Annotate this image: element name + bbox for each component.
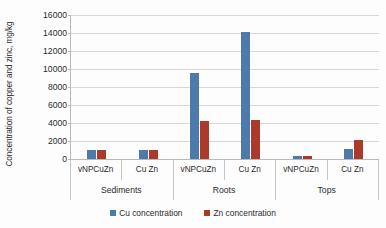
axis-separator — [70, 160, 71, 180]
axis-separator — [378, 160, 379, 180]
bar-cu-concentration — [293, 156, 302, 159]
category-label: Cu Zn — [224, 160, 275, 180]
y-axis-tick-label: 6000 — [48, 100, 67, 110]
chart-legend: Cu concentrationZn concentration — [0, 206, 386, 220]
y-axis-tick-label: 2000 — [48, 136, 67, 146]
plot-area: 1600014000120001000080006000400020000 — [70, 15, 379, 160]
y-axis-title: Concentration of copper and zinc, mg/kg — [2, 14, 16, 174]
legend-label: Cu concentration — [119, 208, 182, 218]
category-label: vNPCuZn — [275, 160, 326, 180]
category-label: Cu Zn — [327, 160, 378, 180]
bar-cu-concentration — [87, 150, 96, 159]
bar-cu-concentration — [139, 150, 148, 159]
category-labels-row: vNPCuZnCu ZnvNPCuZnCu ZnvNPCuZnCu Zn — [70, 160, 378, 180]
y-axis-tick-label: 10000 — [43, 64, 67, 74]
group-label: Roots — [173, 180, 276, 200]
group-label: Tops — [275, 180, 378, 200]
bar-zn-concentration — [354, 140, 363, 159]
category-axis: vNPCuZnCu ZnvNPCuZnCu ZnvNPCuZnCu Zn Sed… — [70, 160, 378, 200]
bar-zn-concentration — [149, 150, 158, 159]
y-axis-tick-label: 14000 — [43, 28, 67, 38]
group-labels-row: SedimentsRootsTops — [70, 180, 378, 200]
legend-label: Zn concentration — [213, 208, 275, 218]
bars-layer — [71, 15, 379, 159]
group-label: Sediments — [70, 180, 173, 200]
legend-item[interactable]: Zn concentration — [204, 208, 275, 218]
y-axis-tick-label: 8000 — [48, 82, 67, 92]
bar-cu-concentration — [344, 149, 353, 159]
group-separator — [70, 180, 71, 200]
y-axis-tick-label: 12000 — [43, 46, 67, 56]
bar-zn-concentration — [97, 150, 106, 159]
category-label: vNPCuZn — [70, 160, 121, 180]
y-axis-tick-label: 0 — [62, 154, 67, 164]
group-separator — [378, 180, 379, 200]
legend-swatch-icon — [204, 210, 210, 216]
bar-zn-concentration — [200, 121, 209, 159]
bar-zn-concentration — [303, 156, 312, 159]
category-label: Cu Zn — [121, 160, 172, 180]
y-axis-tick-label: 16000 — [43, 10, 67, 20]
bar-cu-concentration — [190, 73, 199, 159]
y-axis-tick-label: 4000 — [48, 118, 67, 128]
legend-swatch-icon — [110, 210, 116, 216]
legend-item[interactable]: Cu concentration — [110, 208, 182, 218]
category-label: vNPCuZn — [173, 160, 224, 180]
bar-cu-concentration — [241, 32, 250, 159]
bar-chart: Concentration of copper and zinc, mg/kg … — [0, 0, 386, 228]
bar-zn-concentration — [251, 120, 260, 159]
